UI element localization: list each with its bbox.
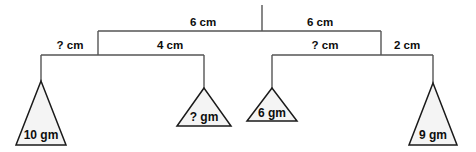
left-beam-right-length-label: 4 cm [157,39,183,51]
left-beam-left-length-label: ? cm [57,39,84,51]
weight-unknown: ? gm [177,88,231,126]
right-beam-right-length-label: 2 cm [394,39,420,51]
weight-9gm: 9 gm [409,83,457,145]
weight-6gm: 6 gm [247,88,297,121]
weight-label: 10 gm [24,128,59,142]
weight-10gm: 10 gm [16,81,66,145]
weight-label: 9 gm [419,128,447,142]
weight-label: 6 gm [258,106,286,120]
top-beam-right-length-label: 6 cm [307,16,333,28]
right-beam-left-length-label: ? cm [312,39,339,51]
top-beam-left-length-label: 6 cm [190,16,216,28]
hanging-mobile-diagram: 6 cm 6 cm ? cm 4 cm ? cm 2 cm 10 gm ? gm… [0,0,476,152]
weight-label: ? gm [190,110,219,124]
